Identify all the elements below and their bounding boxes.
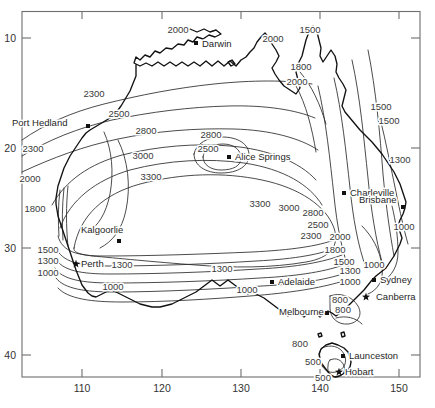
y-axis-tick-labels: 10 20 30 40: [4, 32, 16, 361]
contour-label: 1500: [299, 24, 320, 35]
x-tick-label: 120: [153, 382, 171, 394]
contour-line: [74, 175, 336, 267]
contour-label: 1800: [24, 203, 45, 214]
city-marker-dot[interactable]: [372, 278, 376, 282]
city-marker-dot[interactable]: [401, 205, 405, 209]
city-label: Alice Springs: [235, 151, 291, 162]
city-marker-dot[interactable]: [117, 239, 121, 243]
contour-label: 1300: [37, 255, 58, 266]
contour-label: 2800: [200, 129, 221, 140]
y-tick-label: 10: [4, 32, 16, 44]
contour-label: 1000: [236, 284, 257, 295]
contour-lines: [22, 50, 408, 377]
contour-label: 3300: [140, 171, 161, 182]
contour-label: 2000: [167, 24, 188, 35]
contour-label: 2000: [19, 173, 40, 184]
island-outline: [318, 333, 322, 337]
contour-line: [58, 236, 334, 256]
city-label: Perth: [81, 258, 104, 269]
contour-line: [58, 190, 60, 236]
contour-label: 1300: [389, 154, 410, 165]
city-marker-dot[interactable]: [86, 124, 90, 128]
contour-label: 2500: [307, 219, 328, 230]
contour-label: 1000: [102, 281, 123, 292]
city-label: Melbourne: [279, 306, 324, 317]
contour-line: [88, 132, 112, 232]
city-marker-dot[interactable]: [325, 311, 329, 315]
city-label: Darwin: [202, 38, 232, 49]
contour-label: 1500: [370, 101, 391, 112]
contour-label: 1300: [111, 259, 132, 270]
contour-label: 1300: [211, 263, 232, 274]
contour-label: 2300: [22, 143, 43, 154]
contour-label: 2800: [302, 207, 323, 218]
contour-label: 800: [335, 304, 351, 315]
city-marker-dot[interactable]: [342, 191, 346, 195]
contour-map-figure: 110 120 130 140 150 10 20 30 40: [0, 0, 435, 408]
contour-label: 500: [305, 356, 321, 367]
y-tick-label: 40: [4, 349, 16, 361]
city-marker-dot[interactable]: [270, 280, 274, 284]
y-tick-label: 30: [4, 242, 16, 254]
contour-label: 2300: [83, 88, 104, 99]
city-marker-dot[interactable]: [194, 41, 198, 45]
city-label: Adelaide: [278, 276, 315, 287]
contour-label: 1800: [324, 244, 345, 255]
contour-label: 3000: [132, 150, 153, 161]
contour-label: 1800: [290, 61, 311, 72]
city-markers: DarwinDarwinPort HedlandPort HedlandAlic…: [12, 38, 416, 377]
contour-line: [60, 160, 322, 228]
contour-label: 1000: [393, 221, 414, 232]
contour-label: 2000: [262, 33, 283, 44]
contour-label: 2000: [329, 231, 350, 242]
city-label: Hobart: [345, 366, 374, 377]
city-marker-dot[interactable]: [341, 354, 345, 358]
city-label: Port Hedland: [12, 117, 67, 128]
x-tick-label: 110: [74, 382, 91, 394]
contour-line: [296, 86, 316, 152]
contour-label: 3000: [278, 202, 299, 213]
city-label: Canberra: [376, 291, 416, 302]
city-label: Brisbane: [359, 194, 397, 205]
contour-line: [382, 206, 398, 282]
x-tick-label: 140: [311, 382, 329, 394]
island-outline: [341, 332, 345, 337]
contour-label: 2500: [197, 143, 218, 154]
contour-label: 2500: [108, 108, 129, 119]
x-tick-label: 130: [232, 382, 250, 394]
city-label: Launceston: [349, 350, 398, 361]
contour-label: 2000: [286, 76, 307, 87]
x-tick-label: 150: [390, 382, 408, 394]
x-axis-tick-labels: 110 120 130 140 150: [74, 382, 408, 394]
city-label: Kalgoorlie: [81, 224, 123, 235]
contour-line: [67, 186, 69, 246]
contour-label: 1500: [378, 115, 399, 126]
contour-label: 1300: [339, 265, 360, 276]
contour-label: 1000: [37, 267, 58, 278]
y-tick-label: 20: [4, 142, 16, 154]
contour-label: 800: [292, 338, 308, 349]
city-marker-dot[interactable]: [227, 155, 231, 159]
city-label: Sydney: [380, 274, 412, 285]
contour-label: 500: [315, 372, 331, 383]
contour-label: 2800: [135, 125, 156, 136]
contour-label: 1000: [339, 276, 360, 287]
contour-label: 1000: [363, 259, 384, 270]
map-canvas: 110 120 130 140 150 10 20 30 40: [0, 0, 435, 408]
contour-label: 1500: [37, 244, 58, 255]
contour-label: 3300: [249, 198, 270, 209]
contour-label: 2300: [300, 230, 321, 241]
